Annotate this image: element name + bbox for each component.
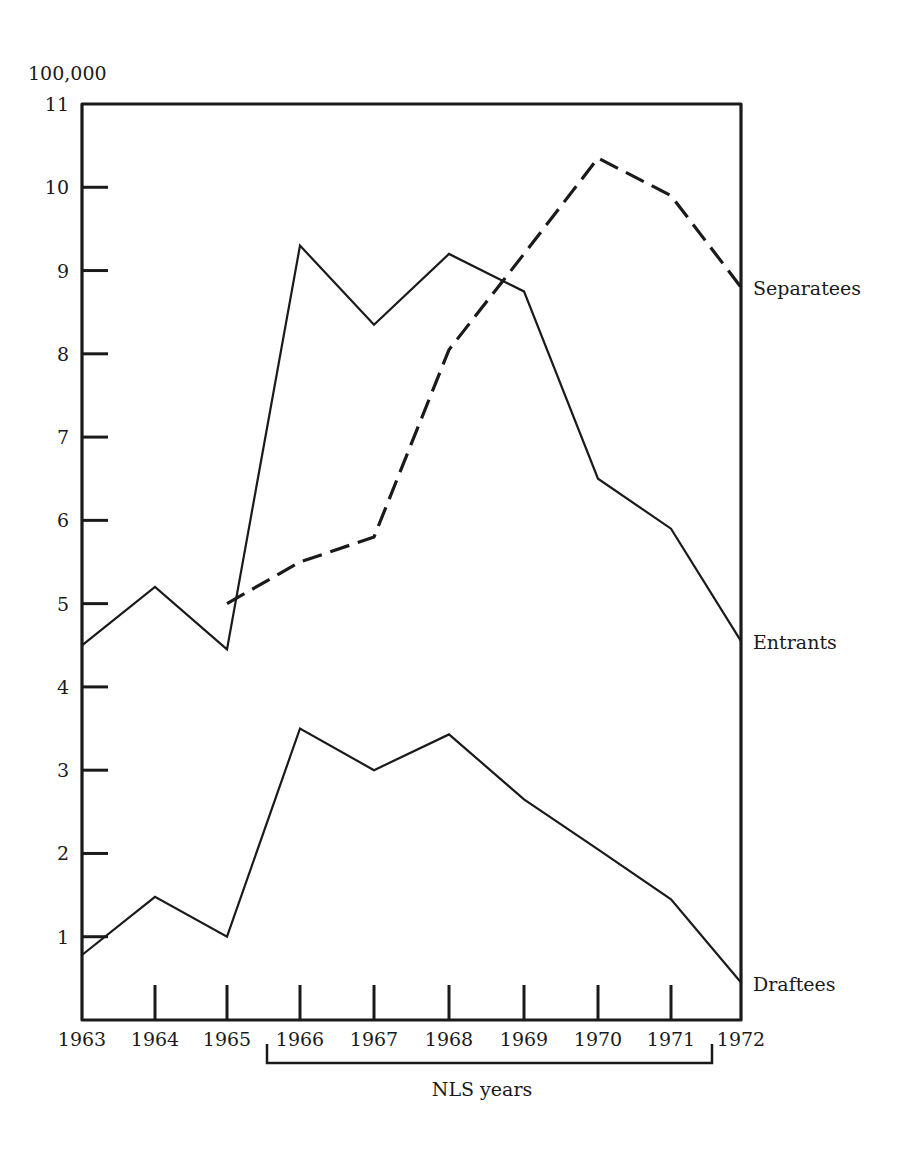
- series-labels: SeparateesEntrantsDraftees: [753, 277, 861, 994]
- x-tick-label: 1966: [276, 1028, 324, 1050]
- y-tick-label: 9: [57, 260, 69, 282]
- nls-years-label: NLS years: [432, 1078, 532, 1100]
- nls-years-bracket: [267, 1044, 712, 1063]
- y-axis: 1234567891011: [45, 93, 108, 948]
- plot-frame: [82, 104, 741, 1020]
- y-tick-label: 5: [57, 593, 69, 615]
- series-separatees-line: [227, 158, 741, 603]
- x-tick-label: 1970: [574, 1028, 622, 1050]
- line-chart: 100,000 1234567891011 196319641965196619…: [0, 0, 909, 1155]
- x-tick-label: 1968: [425, 1028, 473, 1050]
- x-tick-label: 1963: [58, 1028, 106, 1050]
- plot-border: [82, 104, 741, 1020]
- x-tick-label: 1972: [717, 1028, 765, 1050]
- series-label-draftees: Draftees: [753, 973, 836, 995]
- series-entrants-line: [82, 246, 741, 650]
- x-tick-label: 1971: [647, 1028, 695, 1050]
- y-unit-label: 100,000: [28, 62, 107, 84]
- x-tick-label: 1967: [350, 1028, 398, 1050]
- x-tick-label: 1965: [203, 1028, 251, 1050]
- y-tick-label: 3: [57, 759, 69, 781]
- series-lines: [82, 158, 741, 982]
- y-tick-label: 10: [45, 176, 69, 198]
- series-label-separatees: Separatees: [753, 277, 861, 299]
- x-tick-label: 1969: [500, 1028, 548, 1050]
- y-tick-label: 4: [57, 676, 69, 698]
- x-tick-label: 1964: [131, 1028, 179, 1050]
- bracket-line: [267, 1044, 712, 1063]
- y-tick-label: 1: [57, 926, 69, 948]
- series-draftees-line: [82, 729, 741, 983]
- y-tick-label: 7: [57, 426, 69, 448]
- y-tick-label: 8: [57, 343, 69, 365]
- y-tick-label: 2: [57, 842, 69, 864]
- y-tick-label: 11: [45, 93, 69, 115]
- x-axis: 1963196419651966196719681969197019711972: [58, 985, 765, 1050]
- series-label-entrants: Entrants: [753, 631, 837, 653]
- y-tick-label: 6: [57, 509, 69, 531]
